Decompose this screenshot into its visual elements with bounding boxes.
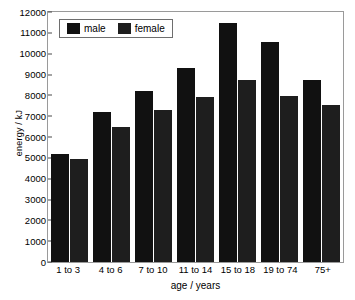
y-axis-tick: 5000 [25,152,48,163]
y-axis-tick-label: 5000 [25,153,48,163]
x-axis-label: 4 to 6 [89,264,131,276]
y-axis-tick: 2000 [25,215,48,226]
y-axis-tick-label: 11000 [20,28,48,38]
y-axis-tick: 6000 [25,132,48,143]
x-axis-label: 11 to 14 [174,264,216,276]
bar-female [238,80,256,262]
bar-group [132,12,174,262]
y-axis-tick: 10000 [20,48,48,59]
bar-male [261,42,279,262]
legend-swatch-male-icon [67,23,80,34]
bar-group [301,12,343,262]
x-axis-label: 1 to 3 [47,264,89,276]
bar-male [303,80,321,262]
bar-male [93,112,111,262]
bar-group [90,12,132,262]
y-axis-tick-label: 6000 [25,132,48,142]
x-axis-label: 19 to 74 [259,264,301,276]
bar-group [259,12,301,262]
bar-female [154,110,172,262]
y-axis-tick-label: 7000 [25,111,48,121]
x-axis-label: 15 to 18 [217,264,259,276]
legend-entry-male: male [67,23,106,34]
bar-female [322,105,340,262]
y-axis-tick: 4000 [25,173,48,184]
y-axis-tick-label: 4000 [25,174,48,184]
bar-female [196,97,214,262]
bar-female [112,127,130,262]
x-axis-labels: 1 to 34 to 67 to 1011 to 1415 to 1819 to… [47,264,344,276]
legend-label-female: female [135,23,165,34]
y-axis-tick: 9000 [25,69,48,80]
bar-group [217,12,259,262]
bar-chart: energy / kJ 0100020003000400050006000700… [0,0,355,300]
y-axis-tick-label: 2000 [25,215,48,225]
x-axis-title: age / years [47,280,344,291]
y-axis-tick: 11000 [20,27,48,38]
y-axis-tick: 7000 [25,111,48,122]
y-axis-tick: 1000 [25,236,48,247]
y-axis-tick: 3000 [25,194,48,205]
bar-female [280,96,298,262]
bar-male [177,68,195,262]
bar-female [70,159,88,262]
y-axis-tick-label: 3000 [25,195,48,205]
bar-male [219,23,237,262]
bar-group [174,12,216,262]
y-axis-tick-label: 8000 [25,90,48,100]
legend-label-male: male [84,23,106,34]
legend-swatch-female-icon [118,23,131,34]
legend-entry-female: female [118,23,165,34]
y-axis-tick-label: 10000 [20,49,48,59]
bars-area [48,12,343,262]
bar-male [135,91,153,262]
y-axis-tick-label: 1000 [25,236,48,246]
legend: male female [59,19,173,38]
y-axis-tick-label: 9000 [25,70,48,80]
y-axis-tick: 8000 [25,90,48,101]
y-axis-tick: 12000 [20,7,48,18]
y-axis-title: energy / kJ [14,78,24,188]
plot-area: 0100020003000400050006000700080009000100… [47,11,344,263]
x-axis-label: 7 to 10 [132,264,174,276]
bar-group [48,12,90,262]
y-axis-tick-label: 12000 [20,7,48,17]
x-axis-label: 75+ [302,264,344,276]
bar-male [51,154,69,262]
